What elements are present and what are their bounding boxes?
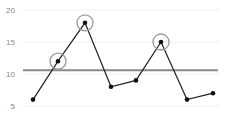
y-tick-label: 15 <box>6 38 15 47</box>
data-point <box>134 78 139 83</box>
data-point <box>211 91 216 96</box>
y-tick-label: 5 <box>11 102 16 111</box>
data-point <box>83 21 88 26</box>
data-point <box>56 59 61 64</box>
data-point <box>31 97 36 102</box>
data-point <box>109 85 114 90</box>
y-tick-label: 20 <box>6 6 15 15</box>
y-axis-labels: 5101520 <box>6 6 15 111</box>
chart-svg: 5101520 <box>0 0 227 127</box>
data-point <box>185 97 190 102</box>
data-point <box>159 40 164 45</box>
y-tick-label: 10 <box>6 70 15 79</box>
gridlines <box>23 10 220 106</box>
data-series <box>31 21 216 102</box>
